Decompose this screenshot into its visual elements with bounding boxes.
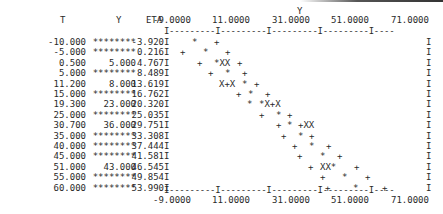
cell-eta: 41.581 — [126, 151, 164, 161]
cell-t: 35.000 — [40, 131, 86, 141]
plot-marker: + — [259, 110, 264, 120]
plot-right-border: I — [426, 58, 431, 68]
plot-marker: XX* — [320, 162, 336, 172]
cell-t: 25.000 — [40, 110, 86, 120]
cell-eta: 46.545 — [126, 162, 164, 172]
cell-eta: 4.767 — [126, 58, 164, 68]
table-row: 55.000********49.854II+*+ — [0, 172, 443, 182]
plot-marker: + — [320, 172, 325, 182]
plot-left-border: I — [164, 58, 169, 68]
plot-marker: + — [354, 162, 359, 172]
table-row: 5.000********8.489II+*+ — [0, 68, 443, 78]
table-row: 15.000********16.762II+*+ — [0, 89, 443, 99]
plot-marker: + — [237, 58, 242, 68]
plot-left-border: I — [164, 110, 169, 120]
cell-eta: 13.619 — [126, 79, 164, 89]
plot-marker: * — [225, 68, 230, 78]
plot-marker: * — [248, 89, 253, 99]
cell-eta: 0.216 — [126, 47, 164, 57]
plot-marker: + — [254, 79, 259, 89]
bottom-axis-line: I---------I---------I---------I---------… — [164, 185, 394, 195]
cell-t: 30.700 — [40, 120, 86, 130]
plot-marker: + — [292, 141, 297, 151]
axis-tick-label: 31.0000 — [272, 15, 310, 25]
plot-left-border: I — [164, 47, 169, 57]
cell-t: 40.000 — [40, 141, 86, 151]
plot-right-border: I — [426, 172, 431, 182]
plot-right-border: I — [426, 68, 431, 78]
cell-t: 55.000 — [40, 172, 86, 182]
axis-tick-label: -9.0000 — [153, 15, 191, 25]
plot-marker: * — [287, 120, 292, 130]
table-row: -10.000********-3.920II*+ — [0, 37, 443, 47]
plot-marker: + — [236, 89, 241, 99]
cell-t: -5.000 — [40, 47, 86, 57]
axis-tick-label: 71.0000 — [391, 195, 429, 205]
plot-left-border: I — [164, 99, 169, 109]
cell-t: -10.000 — [40, 37, 86, 47]
cell-t: 60.000 — [40, 183, 86, 193]
cell-eta: 53.990 — [126, 183, 164, 193]
cell-t: 51.000 — [40, 162, 86, 172]
plot-marker: + — [197, 58, 202, 68]
plot-right-border: I — [426, 141, 431, 151]
cell-t: 11.200 — [40, 79, 86, 89]
axis-tick-label: 31.0000 — [272, 195, 310, 205]
cell-eta: 16.762 — [126, 89, 164, 99]
axis-tick-label: 11.0000 — [212, 195, 250, 205]
cell-eta: 37.444 — [126, 141, 164, 151]
cell-t: 19.300 — [40, 99, 86, 109]
plot-right-border: I — [426, 110, 431, 120]
plot-marker: * — [298, 131, 303, 141]
cell-eta: 33.308 — [126, 131, 164, 141]
plot-right-border: I — [426, 47, 431, 57]
plot-marker: * — [320, 151, 325, 161]
table-row: 51.00043.00046.545II+XX*+ — [0, 162, 443, 172]
plot-right-border: I — [426, 183, 431, 193]
plot-marker: + — [208, 68, 213, 78]
plot-marker: + — [265, 89, 270, 99]
plot-marker: + — [287, 110, 292, 120]
plot-marker: + — [214, 37, 219, 47]
plot-left-border: I — [164, 141, 169, 151]
table-row: 0.5005.0004.767II+*XX+ — [0, 58, 443, 68]
axis-tick-label: 51.0000 — [331, 195, 369, 205]
plot-marker: *X+X — [259, 99, 281, 109]
plot-marker: +XX — [298, 120, 314, 130]
plot-left-border: I — [164, 120, 169, 130]
table-row: 25.000********25.035II+*+ — [0, 110, 443, 120]
plot-marker: X+X — [219, 79, 235, 89]
cell-eta: 8.489 — [126, 68, 164, 78]
cell-eta: 25.035 — [126, 110, 164, 120]
cell-eta: -3.920 — [126, 37, 164, 47]
cell-eta: 49.854 — [126, 172, 164, 182]
plot-right-border: I — [426, 79, 431, 89]
plot-marker: + — [308, 162, 313, 172]
plot-right-border: I — [426, 99, 431, 109]
cell-eta: 20.320 — [126, 99, 164, 109]
cell-t: 5.000 — [40, 68, 86, 78]
axis-tick-label: -9.0000 — [153, 195, 191, 205]
axis-tick-label: 71.0000 — [391, 15, 429, 25]
top-axis-line: I---------I---------I---------I---------… — [164, 26, 394, 36]
plot-marker: + — [276, 120, 281, 130]
table-row: 35.000********33.308II+*+ — [0, 131, 443, 141]
plot-right-border: I — [426, 37, 431, 47]
cell-eta: 29.751 — [126, 120, 164, 130]
table-row: 11.2008.00013.619IIX+X*+ — [0, 79, 443, 89]
plot-left-border: I — [164, 151, 169, 161]
table-row: 30.70036.00029.751II+*+XX — [0, 120, 443, 130]
table-row: 19.30023.00020.320II**X+X — [0, 99, 443, 109]
plot-marker: * — [247, 99, 252, 109]
plot-marker: * — [276, 110, 281, 120]
plot-marker: + — [297, 151, 302, 161]
plot-left-border: I — [164, 162, 169, 172]
plot-marker: * — [342, 172, 347, 182]
axis-tick-label: 51.0000 — [331, 15, 369, 25]
plot-marker: * — [242, 79, 247, 89]
window-top-edge — [300, 0, 443, 2]
plot-marker: + — [365, 172, 370, 182]
table-row: 45.000********41.581II+*+ — [0, 151, 443, 161]
axis-tick-label: 11.0000 — [212, 15, 250, 25]
plot-marker: + — [337, 151, 342, 161]
